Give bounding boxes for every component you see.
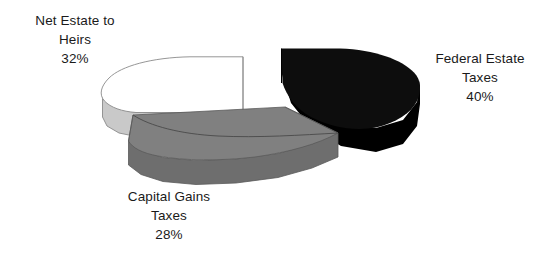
slice-label-heirs-line2: Heirs	[8, 30, 142, 49]
slice-label-federal-line1: Federal Estate	[408, 49, 552, 68]
slice-label-federal-value: 40%	[408, 87, 552, 106]
slice-label-federal-estate-taxes: Federal Estate Taxes 40%	[408, 49, 552, 106]
slice-label-heirs-line1: Net Estate to	[8, 11, 142, 30]
slice-label-capital-line2: Taxes	[98, 206, 240, 225]
slice-label-capital-gains-taxes: Capital Gains Taxes 28%	[98, 187, 240, 244]
pie-chart: Net Estate to Heirs 32% Federal Estate T…	[0, 0, 555, 258]
slice-label-federal-line2: Taxes	[408, 68, 552, 87]
slice-label-capital-line1: Capital Gains	[98, 187, 240, 206]
slice-label-net-estate-to-heirs: Net Estate to Heirs 32%	[8, 11, 142, 68]
slice-label-capital-value: 28%	[98, 225, 240, 244]
slice-label-heirs-value: 32%	[8, 49, 142, 68]
